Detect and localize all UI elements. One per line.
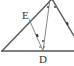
angle-mark-apex-left [47,6,49,8]
angle-mark-apex-right [54,6,56,8]
triangle-right-side [52,0,74,36]
triangle-left-side [2,0,52,51]
label-d: D [39,53,47,65]
angle-mark-d-left [39,46,40,47]
angle-mark-d-right [43,46,44,47]
label-e: E [22,9,29,21]
angle-mark-d-upper [42,40,44,42]
geometry-diagram: E D [0,0,74,66]
